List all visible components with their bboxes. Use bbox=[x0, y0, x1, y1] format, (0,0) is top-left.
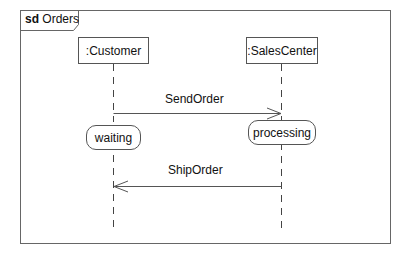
lifeline-salescenter-head[interactable]: :SalesCenter bbox=[246, 37, 318, 64]
frame-name: Orders bbox=[42, 12, 79, 26]
lifeline-salescenter-label: :SalesCenter bbox=[247, 44, 316, 58]
state-processing-label: processing bbox=[253, 126, 311, 140]
state-processing[interactable]: processing bbox=[248, 120, 316, 145]
message-shiporder-label: ShipOrder bbox=[168, 163, 223, 177]
lifeline-customer-head[interactable]: :Customer bbox=[78, 37, 149, 64]
sequence-diagram: sd Orders :Customer :SalesCenter SendOrd… bbox=[0, 0, 410, 255]
state-waiting[interactable]: waiting bbox=[86, 125, 141, 150]
frame-keyword: sd bbox=[25, 12, 39, 26]
frame-border bbox=[21, 11, 391, 244]
frame-title: sd Orders bbox=[25, 12, 79, 26]
state-waiting-label: waiting bbox=[95, 131, 132, 145]
diagram-graphics bbox=[0, 0, 410, 255]
message-sendorder-label: SendOrder bbox=[165, 92, 224, 106]
lifeline-customer-label: :Customer bbox=[86, 44, 141, 58]
